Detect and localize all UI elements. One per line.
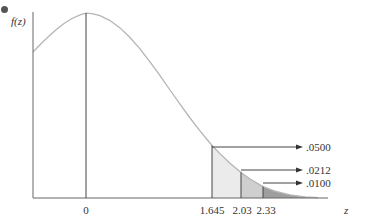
normal-curve-diagram: f(z) z 0 1.645 2.03 2.33 .0500 .0212 .01… [0, 0, 366, 223]
arrowhead-icon [296, 181, 303, 186]
x-axis-label: z [343, 204, 349, 216]
tick-label-1645: 1.645 [200, 204, 225, 216]
tick-label-0: 0 [83, 204, 89, 216]
tail-label-0212: .0212 [306, 164, 331, 176]
arrowhead-icon [296, 145, 303, 150]
tick-label-233: 2.33 [256, 204, 276, 216]
tail-label-0500: .0500 [306, 141, 331, 153]
y-axis-label: f(z) [11, 15, 26, 28]
tail-label-0100: .0100 [306, 177, 331, 189]
arrowhead-icon [296, 168, 303, 173]
tick-label-203: 2.03 [232, 204, 252, 216]
tail-region-0500 [212, 146, 241, 199]
